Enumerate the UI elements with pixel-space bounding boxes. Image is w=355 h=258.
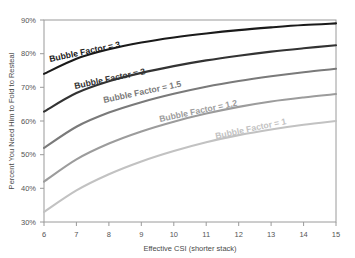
chart-plot: 90% 80% 70% 60% 50% 40% 30% 6 7 8 9 10 1…: [0, 0, 355, 258]
x-tick-label: 9: [139, 230, 143, 239]
x-tick-label: 11: [202, 230, 210, 239]
x-axis-tick-marks: [44, 222, 336, 226]
y-tick-label: 90%: [21, 16, 36, 25]
x-tick-label: 15: [332, 230, 340, 239]
y-tick-label: 50%: [21, 150, 36, 159]
x-tick-label: 10: [170, 230, 178, 239]
chart-container: 90% 80% 70% 60% 50% 40% 30% 6 7 8 9 10 1…: [0, 0, 355, 258]
y-axis-title: Percent You Need Him to Fold to Resteal: [7, 52, 16, 189]
x-axis-tick-labels: 6 7 8 9 10 11 12 13 14 15: [42, 230, 340, 239]
series-label-bf12: Bubble Factor = 1.2: [158, 98, 238, 124]
x-tick-label: 8: [107, 230, 111, 239]
y-tick-label: 80%: [21, 49, 36, 58]
y-axis-tick-marks: [40, 20, 44, 222]
curve-bubble-factor-1: [44, 121, 336, 212]
x-tick-label: 6: [42, 230, 46, 239]
x-tick-label: 7: [74, 230, 78, 239]
y-tick-label: 70%: [21, 83, 36, 92]
y-tick-label: 40%: [21, 184, 36, 193]
y-tick-label: 60%: [21, 117, 36, 126]
x-tick-label: 12: [235, 230, 243, 239]
x-tick-label: 13: [267, 230, 275, 239]
y-axis-tick-labels: 90% 80% 70% 60% 50% 40% 30%: [21, 16, 36, 227]
y-tick-label: 30%: [21, 218, 36, 227]
x-tick-label: 14: [299, 230, 307, 239]
series-label-bf3: Bubble Factor = 3: [48, 39, 121, 64]
x-axis-title: Effective CSI (shorter stack): [143, 244, 237, 253]
